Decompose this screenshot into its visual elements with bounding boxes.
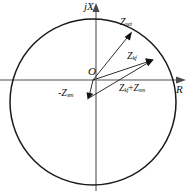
z-set-subscript: set [126, 20, 132, 27]
vector-label-neg-z-sm: -Zsm [58, 88, 73, 99]
vertical-axis-label: jX [84, 1, 94, 12]
sum-subscript-b: sm [139, 87, 145, 93]
vector-label-z-set: Zset [120, 17, 132, 28]
origin-label: O [88, 66, 96, 77]
vector-z-set-line [93, 36, 129, 80]
z-kf-subscript: kf [133, 54, 137, 61]
impedance-plane-diagram: jX R O Zset Zkf -Zsm Zkf+Zsm [0, 0, 195, 191]
neg-z-sm-symbol: -Z [58, 87, 67, 98]
neg-z-sm-subscript: sm [67, 91, 73, 98]
impedance-circle [10, 19, 176, 185]
vector-neg-z-sm-line [90, 80, 94, 95]
vector-label-sum: Zkf+Zsm [119, 84, 145, 94]
horizontal-axis-label: R [176, 84, 183, 95]
vector-sum-arrowhead [146, 60, 154, 67]
diagram-canvas [0, 0, 195, 191]
vector-z-kf-line [93, 62, 149, 81]
vector-label-z-kf: Zkf [127, 51, 137, 62]
